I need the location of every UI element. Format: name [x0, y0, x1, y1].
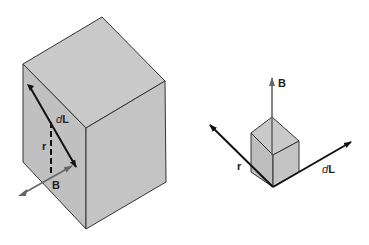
- label-r-left: r: [42, 141, 46, 152]
- large-cube: [23, 17, 166, 229]
- label-b-left: B: [52, 180, 60, 191]
- label-dl-right: dL: [322, 164, 335, 175]
- label-r-right: r: [237, 161, 241, 172]
- b-arrow-tail: [18, 189, 27, 196]
- label-dl-left: dL: [56, 114, 69, 125]
- label-b-right: B: [278, 78, 286, 89]
